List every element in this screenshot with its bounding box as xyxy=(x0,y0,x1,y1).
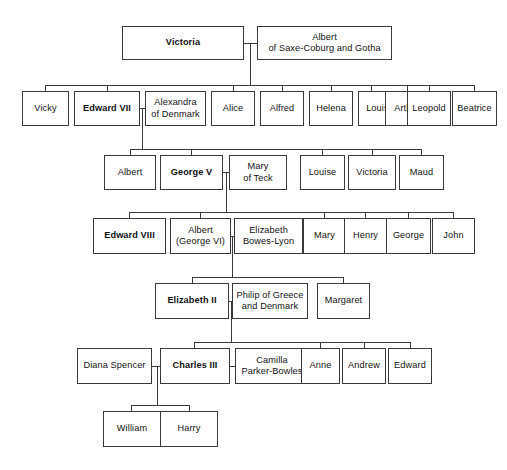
person-name-albert_g6: Albert(George VI) xyxy=(173,225,228,248)
person-box-victoria: Victoria xyxy=(122,26,244,60)
person-name-john: John xyxy=(435,230,472,242)
connector-bus-gen2 xyxy=(45,85,475,86)
connector-m-george5-mary-v xyxy=(226,172,227,212)
person-box-elizabeth2: Elizabeth II xyxy=(155,283,229,319)
person-name-alfred: Alfred xyxy=(263,103,301,115)
person-name-philip: Philip of Greeceand Denmark xyxy=(235,290,305,313)
connector-m-edward7-alex-v xyxy=(142,108,143,149)
person-name-mary_teck: Maryof Teck xyxy=(232,161,284,184)
person-name-edward_p: Edward xyxy=(391,360,429,372)
person-box-helena: Helena xyxy=(309,91,353,126)
person-box-beatrice: Beatrice xyxy=(452,91,497,126)
family-tree-diagram: VictoriaAlbertof Saxe-Coburg and GothaVi… xyxy=(0,0,507,470)
person-box-george5: George V xyxy=(160,155,223,190)
person-name-maud: Maud xyxy=(402,167,441,179)
person-box-william: William xyxy=(103,411,161,447)
person-name-mary2: Mary xyxy=(306,230,343,242)
person-box-alexandra: Alexandraof Denmark xyxy=(145,91,206,126)
person-name-margaret: Margaret xyxy=(320,295,367,307)
person-box-albert_sc: Albertof Saxe-Coburg and Gotha xyxy=(257,26,392,60)
person-box-mary2: Mary xyxy=(303,218,346,254)
person-box-bowes_lyon: ElizabethBowes-Lyon xyxy=(234,218,303,254)
person-name-henry: Henry xyxy=(347,230,384,242)
person-name-albert_sc: Albertof Saxe-Coburg and Gotha xyxy=(260,32,389,55)
person-name-anne: Anne xyxy=(304,360,337,372)
person-name-louise2: Louise xyxy=(303,167,342,179)
person-box-edward_p: Edward xyxy=(388,348,432,384)
person-box-leopold: Leopold xyxy=(407,91,451,126)
person-name-camilla: CamillaParker-Bowles xyxy=(238,355,306,378)
person-name-william: William xyxy=(106,423,158,435)
person-box-harry: Harry xyxy=(160,411,218,447)
person-box-maud: Maud xyxy=(399,155,444,190)
person-box-margaret: Margaret xyxy=(317,283,370,319)
person-name-bowes_lyon: ElizabethBowes-Lyon xyxy=(237,225,300,248)
person-box-philip: Philip of Greeceand Denmark xyxy=(232,283,308,319)
person-name-alexandra: Alexandraof Denmark xyxy=(148,97,203,120)
person-name-edward8: Edward VIII xyxy=(96,230,163,242)
person-box-alfred: Alfred xyxy=(260,91,304,126)
person-box-mary_teck: Maryof Teck xyxy=(229,155,287,190)
person-box-victoria2: Victoria xyxy=(348,155,396,190)
connector-m-albert-eliz-v xyxy=(232,236,233,277)
person-box-alice: Alice xyxy=(211,91,255,126)
person-name-charles3: Charles III xyxy=(163,360,227,372)
person-name-albert2: Albert xyxy=(107,167,153,179)
person-name-helena: Helena xyxy=(312,103,350,115)
person-box-anne: Anne xyxy=(301,348,340,384)
person-box-henry: Henry xyxy=(344,218,387,254)
person-name-elizabeth2: Elizabeth II xyxy=(158,295,226,307)
person-name-andrew: Andrew xyxy=(345,360,383,372)
person-box-george2: George xyxy=(386,218,431,254)
person-box-albert2: Albert xyxy=(104,155,156,190)
connector-bus-gen7 xyxy=(131,405,189,406)
person-name-victoria: Victoria xyxy=(125,37,241,49)
person-box-louise2: Louise xyxy=(300,155,345,190)
connector-bus-gen3 xyxy=(130,149,422,150)
connector-bus-gen4 xyxy=(129,212,454,213)
person-box-albert_g6: Albert(George VI) xyxy=(170,218,231,254)
person-box-charles3: Charles III xyxy=(160,348,230,384)
person-name-diana: Diana Spencer xyxy=(80,360,149,372)
connector-bus-gen6 xyxy=(194,342,410,343)
connector-m-victoria-albert-v xyxy=(250,43,251,85)
person-name-edward7: Edward VII xyxy=(77,103,137,115)
person-box-camilla: CamillaParker-Bowles xyxy=(235,348,309,384)
person-name-victoria2: Victoria xyxy=(351,167,393,179)
person-box-edward7: Edward VII xyxy=(74,91,140,126)
connector-bus-gen5 xyxy=(192,277,344,278)
connector-m-charles-kids-v xyxy=(157,366,158,406)
connector-m-victoria-albert-h xyxy=(244,43,258,44)
person-box-andrew: Andrew xyxy=(342,348,386,384)
person-name-george5: George V xyxy=(163,167,220,179)
person-name-leopold: Leopold xyxy=(410,103,448,115)
person-box-vicky: Vicky xyxy=(22,91,69,126)
person-name-vicky: Vicky xyxy=(25,103,66,115)
person-name-george2: George xyxy=(389,230,428,242)
person-name-harry: Harry xyxy=(163,423,215,435)
person-name-alice: Alice xyxy=(214,103,252,115)
person-box-diana: Diana Spencer xyxy=(77,348,152,384)
person-box-edward8: Edward VIII xyxy=(93,218,166,254)
person-box-john: John xyxy=(432,218,475,254)
person-name-beatrice: Beatrice xyxy=(455,103,494,115)
